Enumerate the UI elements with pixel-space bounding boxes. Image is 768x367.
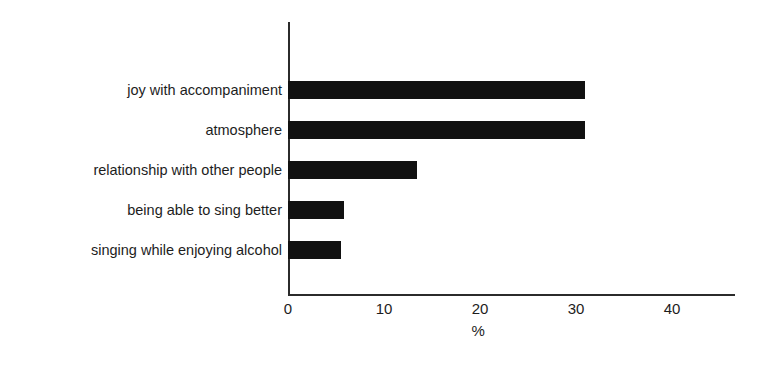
x-axis-title: % [448, 322, 508, 339]
x-tick-label: 40 [642, 300, 702, 317]
category-label: singing while enjoying alcohol [2, 241, 282, 259]
plot-area [288, 22, 735, 295]
bar [288, 241, 341, 259]
x-tick-label: 10 [354, 300, 414, 317]
bar [288, 161, 417, 179]
bar [288, 201, 344, 219]
category-label: relationship with other people [2, 161, 282, 179]
category-label: being able to sing better [2, 201, 282, 219]
x-tick-label: 30 [546, 300, 606, 317]
x-tick-label: 0 [258, 300, 318, 317]
x-tick-label: 20 [450, 300, 510, 317]
bar-chart: joy with accompanimentatmosphererelation… [0, 0, 768, 367]
bar [288, 121, 585, 139]
category-label: atmosphere [2, 121, 282, 139]
bar [288, 81, 585, 99]
category-label: joy with accompaniment [2, 81, 282, 99]
